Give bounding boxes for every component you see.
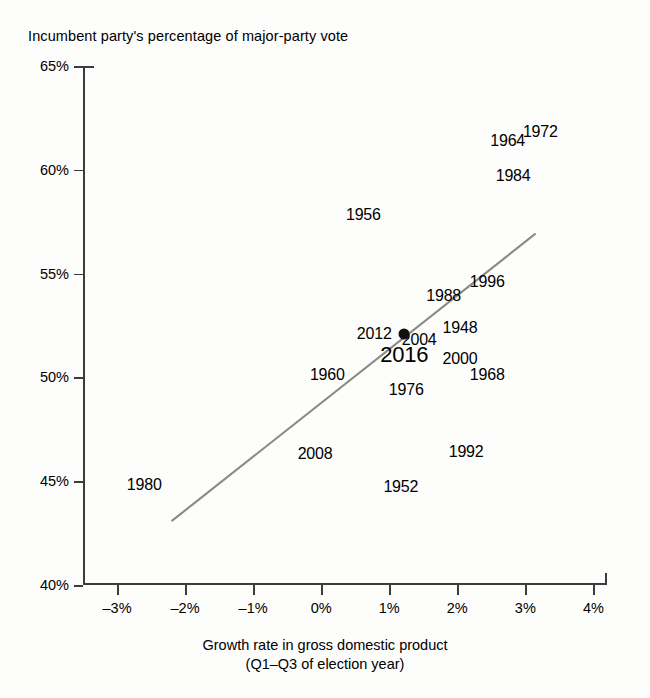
- y-tick-mark: [74, 274, 83, 276]
- data-point-label: 1980: [127, 476, 162, 494]
- data-point-label: 1956: [346, 206, 381, 224]
- data-point-label: 1972: [523, 123, 558, 141]
- data-point-label: 1984: [496, 167, 531, 185]
- x-tick-mark: [593, 585, 595, 595]
- x-tick-mark: [117, 585, 119, 595]
- x-tick-label: –2%: [171, 600, 200, 616]
- x-tick-mark: [321, 585, 323, 595]
- data-point-label: 2016: [380, 342, 428, 368]
- y-axis-title: Incumbent party's percentage of major-pa…: [28, 28, 348, 44]
- x-tick-mark: [389, 585, 391, 595]
- data-point-label: 2012: [357, 325, 392, 343]
- x-axis-title-line2: (Q1–Q3 of election year): [0, 655, 650, 674]
- x-axis-title: Growth rate in gross domestic product (Q…: [0, 636, 650, 674]
- x-tick-label: –3%: [103, 600, 132, 616]
- data-point-label: 1996: [470, 273, 505, 291]
- x-tick-label: 3%: [515, 600, 536, 616]
- x-tick-mark: [253, 585, 255, 595]
- y-tick-mark: [74, 585, 83, 587]
- data-point-label: 2000: [443, 350, 478, 368]
- y-tick-mark: [74, 66, 83, 68]
- x-tick-label: 2%: [447, 600, 468, 616]
- y-tick-label: 45%: [40, 473, 69, 489]
- x-tick-mark: [457, 585, 459, 595]
- data-point-label: 2008: [298, 445, 333, 463]
- data-point-label: 1948: [443, 319, 478, 337]
- data-point-label: 1992: [449, 443, 484, 461]
- x-tick-mark: [185, 585, 187, 595]
- x-axis-title-line1: Growth rate in gross domestic product: [203, 637, 448, 653]
- y-tick-mark: [74, 377, 83, 379]
- y-tick-label: 65%: [40, 58, 69, 74]
- y-tick-mark: [74, 481, 83, 483]
- data-point-label: 1960: [310, 366, 345, 384]
- y-tick-label: 60%: [40, 162, 69, 178]
- plot-area: 65%60%55%50%45%40% –3%–2%–1%0%1%2%3%4% 1…: [83, 66, 607, 585]
- chart-figure: Incumbent party's percentage of major-pa…: [0, 0, 650, 698]
- data-point-label: 1952: [383, 478, 418, 496]
- data-point-label: 1988: [426, 287, 461, 305]
- y-tick-label: 50%: [40, 369, 69, 385]
- x-tick-label: 0%: [311, 600, 332, 616]
- trendline: [83, 66, 607, 585]
- marker-dot: [399, 328, 410, 339]
- x-tick-label: 4%: [583, 600, 604, 616]
- data-point-label: 1964: [490, 132, 525, 150]
- y-tick-label: 55%: [40, 266, 69, 282]
- data-point-label: 1968: [470, 366, 505, 384]
- y-tick-mark: [74, 170, 83, 172]
- x-tick-label: 1%: [379, 600, 400, 616]
- y-tick-label: 40%: [40, 577, 69, 593]
- x-tick-label: –1%: [239, 600, 268, 616]
- x-tick-mark: [525, 585, 527, 595]
- data-point-label: 1976: [389, 381, 424, 399]
